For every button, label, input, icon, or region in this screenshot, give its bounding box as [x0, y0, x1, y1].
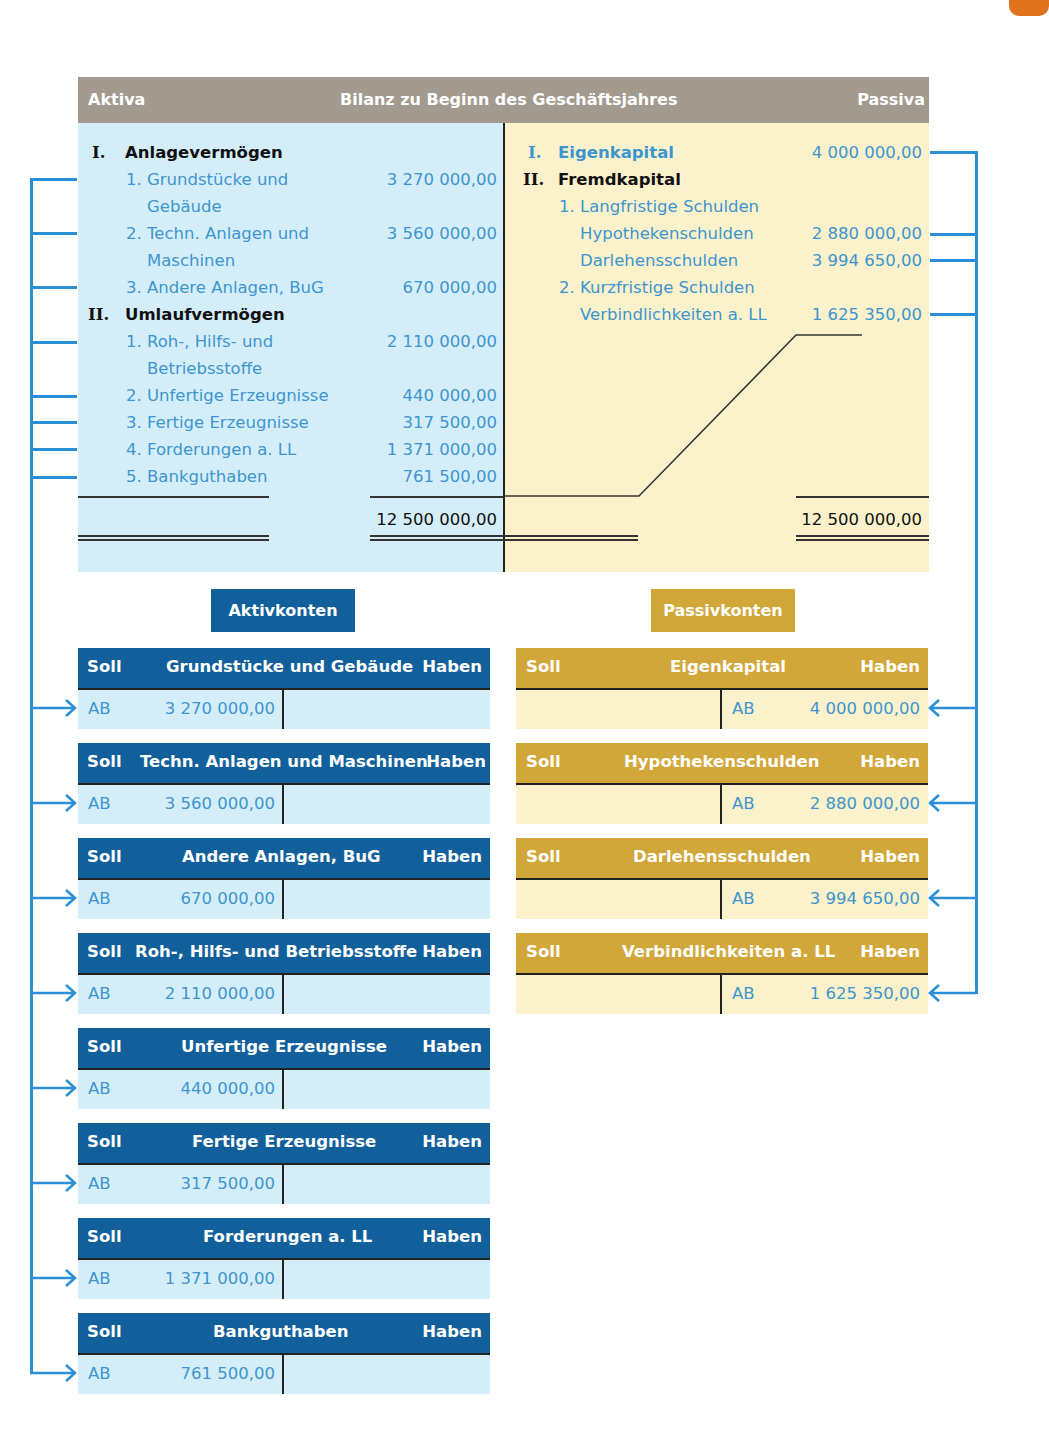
t-account-title: Verbindlichkeiten a. LL	[622, 942, 835, 961]
t-account-title: Hypothekenschulden	[624, 752, 820, 771]
ab-value: 2 880 000,00	[810, 794, 920, 813]
aktiva-item-value: 317 500,00	[403, 409, 497, 436]
aktiva-item-label: 3. Fertige Erzeugnisse	[126, 409, 309, 436]
aktiva-item-label-cont: Maschinen	[147, 247, 235, 274]
t-account-title: Unfertige Erzeugnisse	[181, 1037, 387, 1056]
aktiva-item-value: 3 560 000,00	[387, 220, 497, 247]
passiva-double-line	[796, 535, 929, 537]
t-account-title: Andere Anlagen, BuG	[182, 847, 381, 866]
ab-value: 761 500,00	[181, 1364, 275, 1383]
aktiva-right-sum-line	[370, 496, 504, 498]
connector-stub	[30, 341, 77, 344]
t-account-title: Techn. Anlagen und Maschinen	[140, 752, 428, 771]
long-term-debt-label: 1. Langfristige Schulden	[559, 193, 759, 220]
aktiva-item-value: 3 270 000,00	[387, 166, 497, 193]
aktivkonten-label: Aktivkonten	[211, 589, 355, 632]
passiva-double-line	[796, 539, 929, 541]
aktiva-left-sum-line	[78, 496, 269, 498]
ab-value: 670 000,00	[181, 889, 275, 908]
aktiv-arrows	[30, 697, 80, 1387]
passiv-arrows	[928, 697, 978, 1007]
eigenkapital-value: 4 000 000,00	[812, 139, 922, 166]
passiva-item-value: 3 994 650,00	[812, 247, 922, 274]
passiva-item-label: Hypothekenschulden	[580, 220, 754, 247]
aktiva-item-label-cont: Gebäude	[147, 193, 222, 220]
t-account-verbindlichkeiten: SollVerbindlichkeiten a. LLHaben AB1 625…	[516, 933, 928, 1014]
connector-stub	[930, 259, 978, 262]
t-account-fertige-erzeugnisse: SollFertige ErzeugnisseHaben AB317 500,0…	[78, 1123, 490, 1204]
t-account-title: Roh-, Hilfs- und Betriebsstoffe	[135, 942, 417, 961]
aktiva-item-value: 1 371 000,00	[387, 436, 497, 463]
connector-stub	[930, 233, 978, 236]
passiva-sum-line	[796, 496, 929, 498]
t-account-title: Grundstücke und Gebäude	[166, 657, 413, 676]
t-account-eigenkapital: SollEigenkapitalHaben AB4 000 000,00	[516, 648, 928, 729]
ab-value: 3 270 000,00	[165, 699, 275, 718]
ab-value: 1 371 000,00	[165, 1269, 275, 1288]
ab-value: 1 625 350,00	[810, 984, 920, 1003]
aktiva-item-label: 1. Roh-, Hilfs- und	[126, 328, 273, 355]
passiva-label: Passiva	[857, 90, 925, 109]
aktiva-double-line	[78, 535, 269, 537]
t-account-title: Fertige Erzeugnisse	[192, 1132, 376, 1151]
aktiva-label: Aktiva	[88, 90, 145, 109]
t-account-title: Darlehensschulden	[633, 847, 811, 866]
t-account-title: Eigenkapital	[670, 657, 786, 676]
t-account-title: Bankguthaben	[213, 1322, 349, 1341]
aktiva-item-label: 2. Techn. Anlagen und	[126, 220, 309, 247]
aktiva-group-1-heading: I.Anlagevermögen	[92, 139, 283, 166]
t-account-grundstuecke: SollGrundstücke und GebäudeHaben AB3 270…	[78, 648, 490, 729]
ab-value: 4 000 000,00	[810, 699, 920, 718]
passiva-item-value: 2 880 000,00	[812, 220, 922, 247]
aktiva-double-line	[78, 539, 269, 541]
connector-stub	[30, 421, 77, 424]
t-account-andere-anlagen: SollAndere Anlagen, BuGHaben AB670 000,0…	[78, 838, 490, 919]
t-account-techn-anlagen: SollTechn. Anlagen und MaschinenHaben AB…	[78, 743, 490, 824]
t-account-title: Forderungen a. LL	[203, 1227, 372, 1246]
passivkonten-label: Passivkonten	[651, 589, 795, 632]
passiva-fremdkapital-heading: II.Fremdkapital	[523, 166, 681, 193]
t-account-hypothekenschulden: SollHypothekenschuldenHaben AB2 880 000,…	[516, 743, 928, 824]
ab-value: 440 000,00	[181, 1079, 275, 1098]
aktiva-item-label-cont: Betriebsstoffe	[147, 355, 262, 382]
t-account-bankguthaben: SollBankguthabenHaben AB761 500,00	[78, 1313, 490, 1394]
passiva-item-label: Darlehensschulden	[580, 247, 738, 274]
connector-stub	[30, 448, 77, 451]
aktiva-item-value: 440 000,00	[403, 382, 497, 409]
t-account-forderungen: SollForderungen a. LLHaben AB1 371 000,0…	[78, 1218, 490, 1299]
connector-stub	[30, 178, 77, 181]
page-corner-tab	[1009, 0, 1049, 16]
passiva-total: 12 500 000,00	[801, 506, 922, 533]
t-account-darlehensschulden: SollDarlehensschuldenHaben AB3 994 650,0…	[516, 838, 928, 919]
aktiva-item-label: 2. Unfertige Erzeugnisse	[126, 382, 329, 409]
balance-sheet-header: Aktiva Bilanz zu Beginn des Geschäftsjah…	[78, 77, 929, 123]
ab-value: 3 994 650,00	[810, 889, 920, 908]
t-account-rhb: SollRoh-, Hilfs- und BetriebsstoffeHaben…	[78, 933, 490, 1014]
aktiva-item-label: 3. Andere Anlagen, BuG	[126, 274, 324, 301]
ab-value: 2 110 000,00	[165, 984, 275, 1003]
connector-stub	[30, 232, 77, 235]
aktiva-item-label: 1. Grundstücke und	[126, 166, 288, 193]
balance-title: Bilanz zu Beginn des Geschäftsjahres	[340, 90, 678, 109]
ab-value: 3 560 000,00	[165, 794, 275, 813]
connector-stub	[930, 313, 978, 316]
aktiva-item-label: 4. Forderungen a. LL	[126, 436, 296, 463]
aktiva-group-2-heading: II.Umlaufvermögen	[88, 301, 285, 328]
connector-stub	[30, 395, 77, 398]
aktiva-item-label: 5. Bankguthaben	[126, 463, 267, 490]
connector-stub	[930, 151, 978, 154]
passiva-eigenkapital-heading: I.Eigenkapital	[528, 139, 674, 166]
aktiva-item-value: 2 110 000,00	[387, 328, 497, 355]
t-account-unfertige-erzeugnisse: SollUnfertige ErzeugnisseHaben AB440 000…	[78, 1028, 490, 1109]
connector-stub	[30, 476, 77, 479]
aktiva-total: 12 500 000,00	[376, 506, 497, 533]
aktiva-item-value: 761 500,00	[403, 463, 497, 490]
connector-stub	[30, 286, 77, 289]
short-term-debt-label: 2. Kurzfristige Schulden	[559, 274, 755, 301]
aktiva-item-value: 670 000,00	[403, 274, 497, 301]
ab-value: 317 500,00	[181, 1174, 275, 1193]
